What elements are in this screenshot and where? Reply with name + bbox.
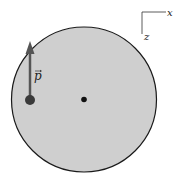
axes-indicator: x z	[142, 7, 173, 42]
momentum-label-text: p	[34, 69, 42, 83]
x-axis-label: x	[167, 7, 173, 18]
disk-diagram: x z p	[0, 0, 181, 177]
z-axis-label: z	[143, 31, 150, 42]
center-dot	[81, 97, 87, 103]
momentum-label: p	[34, 69, 42, 83]
particle	[25, 95, 35, 105]
